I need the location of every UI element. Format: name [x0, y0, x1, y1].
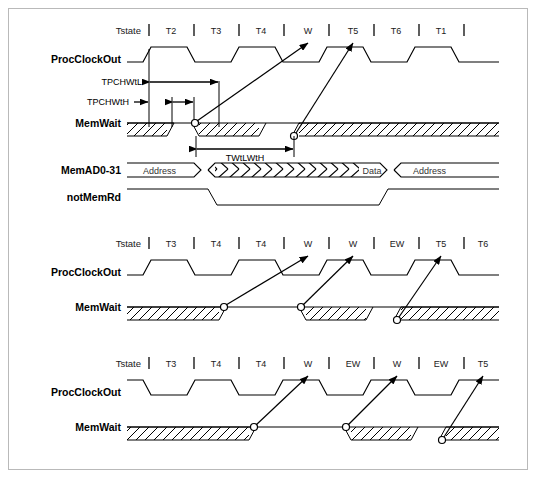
tstate-label: W — [349, 239, 358, 249]
signal-label-procclockout-1: ProcClockOut — [51, 53, 122, 65]
tstate-label: T3 — [166, 239, 177, 249]
signal-label-memwait-1: MemWait — [75, 117, 121, 129]
tstate-label: T3 — [166, 359, 177, 369]
timing-label-twtlwth: TWtLWtH — [226, 153, 264, 163]
tstate-label: W — [304, 26, 313, 36]
tstate-label: T4 — [256, 359, 267, 369]
timing-label-tpchwth: TPCHWtH — [87, 97, 129, 107]
bus-segment-label-address-1: Address — [143, 166, 177, 176]
tstate-label: W — [304, 239, 313, 249]
tstate-label: T2 — [166, 26, 177, 36]
causal-arrow-w-3b — [348, 376, 397, 425]
diagram-1: Tstate T2 T3 T4 W T5 T6 T1 ProcClockOut — [51, 24, 499, 205]
timing-label-tpchwtl: TPCHWtL — [102, 77, 143, 87]
signal-label-notmemrd-1: notMemRd — [67, 191, 121, 203]
tstate-label: T4 — [211, 239, 222, 249]
tstate-label: T6 — [391, 26, 402, 36]
causal-arrow-w-2b — [303, 256, 353, 305]
tstate-label: T3 — [211, 26, 222, 36]
transition-node — [394, 317, 401, 324]
causal-arrow-w-3a — [256, 376, 308, 425]
tstate-label: EW — [434, 359, 449, 369]
transition-node — [439, 437, 446, 444]
tstate-label: EW — [346, 359, 361, 369]
signal-label-memad-1: MemAD0-31 — [61, 164, 121, 176]
signal-label-procclockout-3: ProcClockOut — [51, 386, 122, 398]
waveform-notmemrd-1 — [127, 189, 499, 205]
diagram-3: Tstate T3 T4 T4 W EW W EW T5 ProcClockOu… — [51, 357, 499, 444]
waveform-memwait-1 — [127, 123, 499, 136]
waveform-memwait-2 — [127, 307, 499, 320]
tstate-label: T5 — [436, 239, 447, 249]
tstate-label: T4 — [211, 359, 222, 369]
causal-arrow-t5-1 — [296, 43, 353, 133]
tstate-label: T5 — [478, 359, 489, 369]
tstate-title-3: Tstate — [116, 358, 141, 369]
tstate-label: W — [393, 359, 402, 369]
tstate-label: T6 — [478, 239, 489, 249]
tstate-label: T1 — [436, 26, 447, 36]
timing-diagram-canvas: Tstate T2 T3 T4 W T5 T6 T1 ProcClockOut — [9, 9, 527, 469]
figure-frame: Tstate T2 T3 T4 W T5 T6 T1 ProcClockOut — [8, 8, 528, 470]
bus-segment-label-address-2: Address — [413, 166, 447, 176]
signal-label-procclockout-2: ProcClockOut — [51, 266, 122, 278]
tstate-label: W — [304, 359, 313, 369]
tstate-title-1: Tstate — [116, 25, 141, 36]
bus-segment-label-data-1: Data — [362, 166, 381, 176]
waveform-procclockout-1 — [127, 47, 499, 62]
causal-arrow-w-2a — [226, 256, 308, 305]
signal-label-memwait-3: MemWait — [75, 421, 121, 433]
tstate-label: T4 — [256, 239, 267, 249]
waveform-procclockout-2 — [127, 260, 499, 275]
tstate-label: T4 — [256, 26, 267, 36]
tstate-label: T5 — [348, 26, 359, 36]
bus-memad-1: Address Data Address — [127, 163, 499, 177]
waveform-procclockout-3 — [127, 380, 499, 395]
tstate-title-2: Tstate — [116, 238, 141, 249]
diagram-2: Tstate T3 T4 T4 W W EW T5 T6 ProcClockOu… — [51, 237, 499, 324]
tstate-label: EW — [390, 239, 405, 249]
signal-label-memwait-2: MemWait — [75, 301, 121, 313]
